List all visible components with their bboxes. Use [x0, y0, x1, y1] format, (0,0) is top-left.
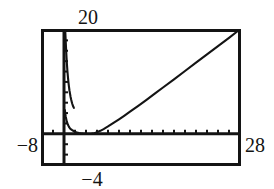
x-axis-origin-label: −4 [81, 168, 102, 189]
graph-figure: 20 −8 28 −4 [0, 0, 274, 189]
x-axis-min-label: −8 [17, 134, 38, 156]
plot-canvas: 20 −8 28 −4 [0, 0, 274, 189]
y-axis-max-label: 20 [78, 6, 98, 28]
x-axis-max-label: 28 [245, 134, 265, 156]
